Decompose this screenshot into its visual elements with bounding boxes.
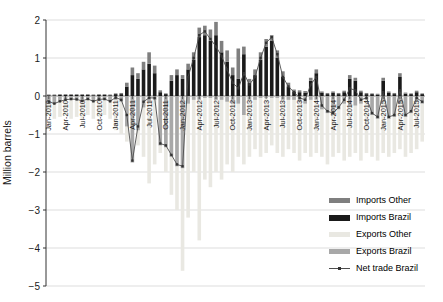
net-trade-marker [232,82,234,84]
net-trade-marker [343,99,345,101]
bar-imports-brazil [119,94,123,96]
net-trade-marker [259,57,261,59]
bar-imports-other [181,75,185,79]
bar-imports-brazil [64,95,68,96]
bar-exports-brazil [192,96,196,100]
bar-imports-other [153,66,157,74]
bar-imports-brazil [203,35,207,96]
bar-imports-brazil [209,41,213,96]
net-trade-marker [187,76,189,78]
bar-imports-brazil [270,41,274,96]
bar-imports-other [326,93,330,94]
net-trade-marker [365,97,367,99]
net-trade-marker [321,104,323,106]
bar-imports-brazil [158,92,162,96]
bar-imports-brazil [197,37,201,96]
bar-imports-other [103,94,107,95]
x-tick-label: Apr-2014 [329,100,338,130]
bar-imports-brazil [97,95,101,96]
y-tick-label: 2 [34,15,40,26]
net-trade-marker [165,144,167,146]
net-trade-marker [92,100,94,102]
bar-exports-brazil [209,96,213,98]
legend-item-imports-brazil: Imports Brazil [329,209,441,226]
bar-exports-brazil [309,96,313,100]
bar-imports-other [303,91,307,93]
net-trade-marker [131,159,133,161]
bar-imports-other [136,73,140,79]
x-tick-label: Oct-2014 [362,100,371,130]
net-trade-marker [315,76,317,78]
bar-imports-other [131,68,135,76]
x-tick-label: Jan-2014 [312,100,321,131]
bar-imports-brazil [53,95,57,96]
bar-imports-brazil [393,94,397,96]
legend-label: Exports Brazil [356,247,412,256]
net-trade-marker [59,100,61,102]
bar-imports-other [114,93,118,94]
bar-imports-brazil [376,94,380,96]
net-trade-marker [137,125,139,127]
bar-imports-brazil [276,58,280,96]
net-trade-marker [287,85,289,87]
bar-imports-other [142,62,146,70]
y-tick-label: −2 [29,167,41,178]
net-trade-marker [421,101,423,103]
net-trade-marker [142,101,144,103]
net-trade-marker [404,114,406,116]
net-trade-marker [120,99,122,101]
bar-imports-other [393,93,397,94]
bar-imports-brazil [108,95,112,96]
bar-imports-brazil [114,94,118,96]
bar-imports-other [170,75,174,81]
bar-imports-brazil [47,95,51,96]
bar-imports-other [359,91,363,93]
net-trade-marker [393,114,395,116]
bar-imports-brazil [192,60,196,96]
bar-imports-other [69,94,73,95]
bar-imports-brazil [75,95,79,96]
legend-item-net-trade-brazil: Net trade Brazil [329,260,441,277]
net-trade-marker [310,83,312,85]
x-tick-label: Jul-2013 [278,100,287,128]
bar-exports-brazil [270,96,274,98]
net-trade-marker [265,42,267,44]
imports-other-swatch-icon [329,198,350,203]
bar-imports-other [119,93,123,94]
x-tick-label: Apr-2013 [262,100,271,130]
bar-imports-other [342,91,346,93]
x-tick-label: Jul-2014 [345,100,354,128]
bar-exports-brazil [253,96,257,100]
bar-imports-brazil [415,92,419,96]
bar-imports-other [97,94,101,95]
bar-imports-brazil [398,77,402,96]
bar-imports-other [175,69,179,75]
bar-imports-brazil [80,95,84,96]
bar-imports-brazil [231,75,235,96]
x-tick-label: Jul-2011 [145,100,154,128]
net-trade-marker [170,154,172,156]
y-tick-label: −3 [29,205,41,216]
bar-imports-brazil [354,81,358,96]
net-trade-marker [254,76,256,78]
bar-imports-brazil [326,94,330,96]
bar-imports-other [58,94,62,95]
x-tick-label: Jul-2010 [78,100,87,128]
net-trade-marker [399,89,401,91]
net-trade-marker [109,100,111,102]
bar-imports-other [186,64,190,70]
net-trade-marker [298,97,300,99]
x-tick-label: Apr-2010 [61,100,70,130]
x-tick-label: Jan-2013 [245,100,254,131]
net-trade-marker [114,96,116,98]
bar-imports-brazil [136,79,140,96]
net-trade-marker [304,99,306,101]
bar-imports-other [75,94,79,95]
bar-imports-brazil [264,47,268,96]
legend-item-imports-other: Imports Other [329,192,441,209]
bar-imports-other [125,83,129,87]
bar-imports-other [370,93,374,94]
bar-imports-brazil [125,87,129,97]
bar-imports-brazil [365,94,369,96]
bar-imports-brazil [359,92,363,96]
